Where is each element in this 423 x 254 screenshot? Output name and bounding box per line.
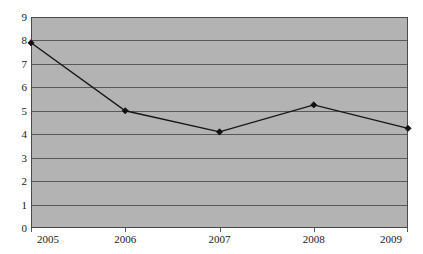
y-tick-label: 3	[3, 152, 27, 163]
x-tick-mark	[31, 228, 32, 232]
x-tick-mark	[220, 228, 221, 232]
x-tick-label: 2008	[290, 233, 338, 246]
line-chart: 0123456789 20052006200720082009	[0, 0, 423, 254]
data-point-marker	[311, 102, 317, 108]
x-tick-mark	[407, 228, 408, 232]
y-tick-label: 6	[3, 82, 27, 93]
y-tick-label: 2	[3, 176, 27, 187]
y-tick-label: 5	[3, 105, 27, 116]
data-series-layer	[31, 17, 408, 228]
x-tick-label: 2009	[367, 233, 415, 246]
y-tick-label: 1	[3, 199, 27, 210]
y-tick-label: 0	[3, 223, 27, 234]
x-tick-mark	[125, 228, 126, 232]
x-tick-mark	[314, 228, 315, 232]
data-point-marker	[216, 129, 222, 135]
x-tick-label: 2007	[196, 233, 244, 246]
y-axis: 0123456789	[0, 17, 27, 228]
x-axis: 20052006200720082009	[0, 233, 423, 249]
series-line	[31, 43, 408, 132]
y-tick-label: 4	[3, 129, 27, 140]
x-tick-label: 2005	[24, 233, 72, 246]
y-tick-label: 7	[3, 58, 27, 69]
x-tick-label: 2006	[101, 233, 149, 246]
y-tick-label: 9	[3, 12, 27, 23]
y-tick-label: 8	[3, 35, 27, 46]
data-point-marker	[405, 125, 411, 131]
